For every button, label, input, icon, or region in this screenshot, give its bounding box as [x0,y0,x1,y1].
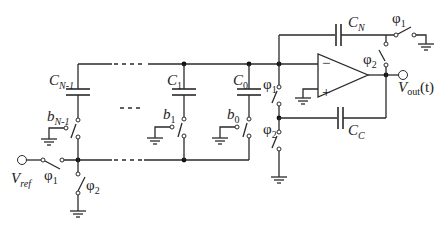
opamp-minus: − [322,55,330,71]
top-bus [78,62,318,67]
label-b1: b1 [163,106,176,125]
label-b-n-minus-1: bN-1 [47,108,70,127]
sum-node-switches [271,64,287,183]
label-phi1-sum: φ1 [263,76,277,95]
opamp: − + [295,54,368,104]
label-vout: Vout(t) [398,79,434,97]
label-c1: C1 [167,72,182,91]
label-cc: CC [348,122,365,141]
label-b0: b0 [227,106,240,125]
label-phi1-vref: φ1 [44,167,58,186]
label-c-n-minus-1: CN-1 [49,72,74,91]
opamp-plus: + [322,84,330,100]
label-vref: Vref [11,170,32,189]
vref-input [18,156,65,170]
bottom-bus [62,158,249,163]
label-c0: C0 [233,72,248,91]
label-phi2-sum: φ2 [263,121,277,140]
label-cn: CN [348,14,366,33]
compensation-cc [279,107,386,129]
labels: CN-1 C1 C0 CN CC bN-1 b1 b0 φ1 φ2 φ1 φ2 … [11,10,434,196]
label-phi2-bottom: φ2 [86,177,100,196]
label-phi1-cn: φ1 [392,10,406,29]
label-phi2-out: φ2 [363,51,377,70]
bottom-phi2-switch [70,160,86,217]
circuit-diagram: − + CN-1 C1 C0 CN CC bN-1 b1 b0 φ1 φ2 φ1… [0,0,446,230]
feedback-cn [279,24,434,64]
